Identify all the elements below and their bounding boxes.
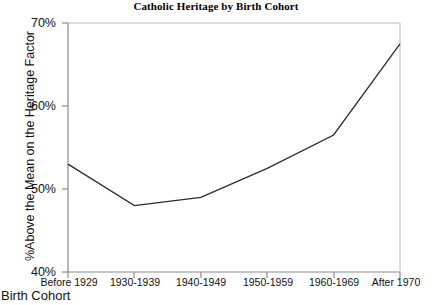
x-tick-label-after-1970: After 1970	[361, 277, 431, 288]
data-series-line	[68, 44, 400, 206]
x-axis-title: Birth Cohort	[1, 288, 70, 303]
chart-container: Catholic Heritage by Birth Cohort %Above…	[0, 0, 432, 305]
plot-area	[0, 0, 432, 305]
